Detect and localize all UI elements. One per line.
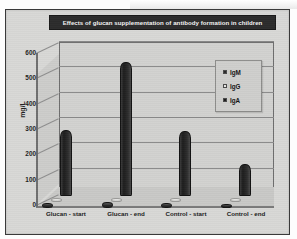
y-tick-label: 0	[16, 201, 36, 208]
bar-body	[51, 198, 62, 202]
bar-iga-3	[179, 131, 191, 196]
y-tick-label: 300	[16, 125, 36, 132]
x-tick-label: Glucan - end	[96, 210, 156, 224]
bar-body	[179, 131, 191, 196]
bar-igm-2	[102, 202, 113, 208]
legend-swatch-icon	[223, 84, 227, 88]
bar-body	[111, 198, 122, 202]
bar-igg-4	[230, 199, 241, 203]
legend-item-igg: IgG	[219, 79, 258, 93]
bar-igg-3	[170, 198, 181, 202]
x-axis-tick-labels: Glucan - startGlucan - endControl - star…	[36, 210, 276, 224]
bar-body	[102, 202, 113, 208]
legend-label: IgM	[230, 69, 241, 76]
x-tick-label: Control - end	[216, 210, 276, 224]
bar-body	[120, 62, 132, 196]
scan-artifact-strip	[130, 0, 297, 9]
bar-igm-3	[161, 203, 172, 208]
legend-label: IgA	[230, 97, 240, 104]
bar-body	[161, 203, 172, 208]
y-tick-label: 500	[16, 74, 36, 81]
bar-body	[42, 203, 53, 208]
y-tick-label: 600	[16, 49, 36, 56]
bar-igg-2	[111, 198, 122, 202]
legend-item-igm: IgM	[219, 65, 258, 79]
legend-swatch-icon	[223, 70, 227, 74]
bar-body	[170, 198, 181, 202]
bar-igg-1	[51, 198, 62, 202]
chart-container: Effects of glucan supplementation of ant…	[5, 9, 290, 235]
chart-legend: IgMIgGIgA	[215, 60, 262, 112]
scanned-page: Effects of glucan supplementation of ant…	[0, 0, 297, 239]
y-tick-label: 200	[16, 150, 36, 157]
chart-title: Effects of glucan supplementation of ant…	[49, 15, 276, 30]
legend-swatch-icon	[223, 98, 227, 102]
legend-item-iga: IgA	[219, 93, 258, 107]
bar-igm-4	[221, 204, 232, 208]
bar-igm-1	[42, 203, 53, 208]
bar-body	[230, 198, 241, 202]
y-axis-tick-labels: 0100200300400500600	[14, 10, 36, 236]
x-tick-label: Glucan - start	[36, 210, 96, 224]
bar-body	[221, 204, 232, 208]
legend-label: IgG	[230, 83, 241, 90]
x-tick-label: Control - start	[156, 210, 216, 224]
bar-body	[239, 164, 251, 196]
bar-iga-4	[239, 164, 251, 196]
y-tick-label: 400	[16, 100, 36, 107]
bar-body	[60, 130, 72, 196]
bar-iga-1	[60, 130, 72, 196]
bar-iga-2	[120, 62, 132, 196]
y-tick-label: 100	[16, 176, 36, 183]
